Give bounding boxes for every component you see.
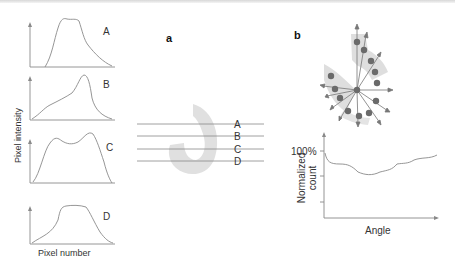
profile-c bbox=[28, 133, 115, 183]
scan-line-label-d: D bbox=[234, 156, 241, 167]
normalized-count-plot bbox=[320, 132, 439, 220]
scan-line-label-c: C bbox=[234, 144, 241, 155]
x-axis-label-angle: Angle bbox=[365, 225, 391, 236]
radial-diagram bbox=[320, 24, 393, 127]
profile-label-a: A bbox=[103, 26, 110, 37]
profile-d bbox=[28, 205, 115, 244]
profile-plots bbox=[28, 19, 115, 244]
crescent-shape bbox=[169, 104, 217, 174]
y-axis-label-pixel-intensity: Pixel intensity bbox=[13, 107, 23, 163]
scan-lines bbox=[137, 124, 264, 161]
y-axis-label-count: count bbox=[307, 166, 318, 191]
scan-line-label-a: A bbox=[234, 119, 241, 130]
x-axis-label-pixel-number: Pixel number bbox=[38, 248, 91, 258]
profile-label-c: C bbox=[106, 142, 113, 153]
scan-line-label-b: B bbox=[234, 131, 241, 142]
panel-label-b: b bbox=[294, 29, 301, 41]
profile-b bbox=[28, 75, 115, 120]
profile-a bbox=[28, 19, 115, 67]
figure-canvas: A B C D Pixel intensity Pixel number a A… bbox=[0, 0, 455, 263]
profile-label-d: D bbox=[103, 211, 110, 222]
profile-label-b: B bbox=[103, 79, 110, 90]
panel-label-a: a bbox=[166, 32, 173, 44]
y-axis-label-normalized: Normalized bbox=[296, 153, 307, 204]
